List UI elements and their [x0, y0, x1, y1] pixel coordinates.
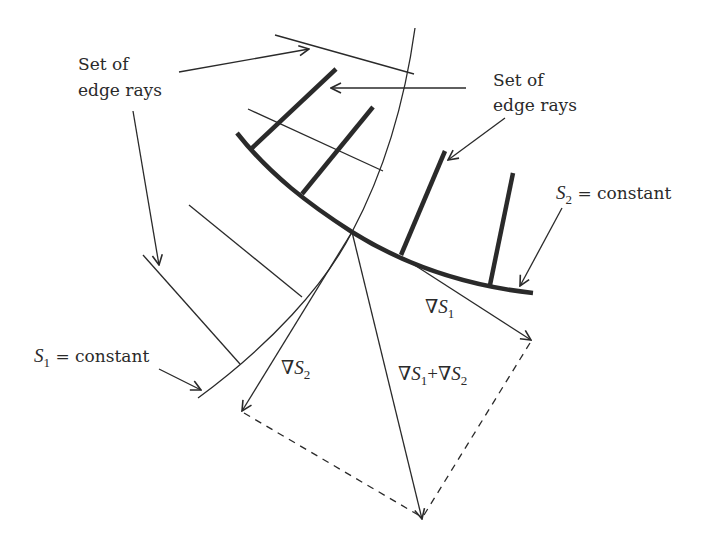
dashed-side-s2 [244, 413, 420, 516]
nabla-symbol: ∇ [281, 357, 294, 378]
pointer-left-rays-upper [179, 49, 309, 72]
s2-edge-ray [490, 173, 513, 285]
label-edge-rays-left-1: Set of [78, 54, 130, 74]
nabla-symbol: ∇ [398, 363, 411, 384]
label-s1-constant: S1 = constant [34, 345, 149, 370]
pointer-right-rays-to-s2ray [448, 118, 505, 160]
grad-s1-symbol: S [438, 296, 448, 317]
s1-edge-ray [189, 205, 302, 297]
pointer-left-rays-lower [133, 111, 159, 265]
grad-s2-symbol: S [294, 357, 304, 378]
label-edge-rays-right-2: edge rays [493, 95, 577, 115]
label-edge-rays-left-2: edge rays [78, 80, 162, 100]
grad-s1-arrow [402, 257, 531, 340]
s2-edge-ray [302, 107, 373, 194]
label-s2-constant: S2 = constant [556, 182, 671, 207]
s2-edge-rays [251, 69, 513, 285]
s1-symbol: S [34, 345, 44, 366]
s1-equals-constant: = constant [50, 346, 149, 366]
plus-sign: + [427, 363, 438, 384]
sum-s1-symbol: S [411, 363, 421, 384]
label-grad-s1: ∇S1 [425, 296, 454, 321]
label-grad-s2: ∇S2 [281, 357, 310, 382]
sum-s2-subscript: 2 [461, 373, 468, 388]
s1-edge-ray [275, 35, 414, 74]
label-grad-sum: ∇S1+∇S2 [398, 363, 467, 388]
grad-s1-subscript: 1 [448, 306, 455, 321]
s1-wavefront-curve [198, 28, 415, 398]
wavefront-diagram: Set of edge rays Set of edge rays S2 = c… [0, 0, 702, 546]
nabla-symbol: ∇ [438, 363, 451, 384]
s1-edge-ray [143, 255, 240, 364]
grad-s2-arrow [242, 232, 352, 411]
s2-edge-ray [251, 69, 336, 149]
grad-s2-subscript: 2 [304, 367, 311, 382]
label-edge-rays-right-1: Set of [493, 70, 545, 90]
s2-equals-constant: = constant [572, 183, 671, 203]
s1-edge-rays [143, 35, 414, 364]
s2-edge-ray [401, 151, 445, 255]
s2-symbol: S [556, 182, 566, 203]
nabla-symbol: ∇ [425, 296, 438, 317]
sum-s2-symbol: S [451, 363, 461, 384]
pointer-s2-constant [520, 208, 562, 286]
pointer-s1-constant [159, 369, 201, 390]
